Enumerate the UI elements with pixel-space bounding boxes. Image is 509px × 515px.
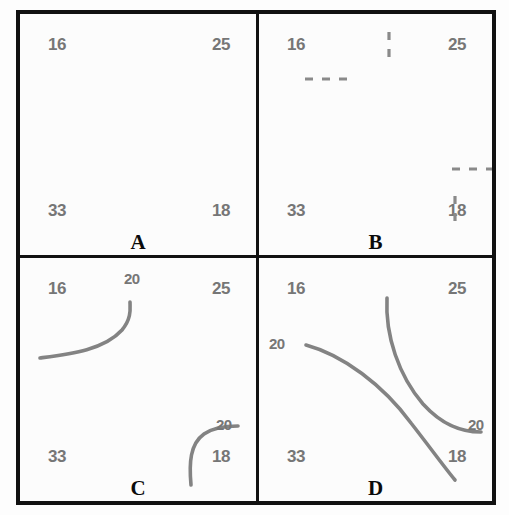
panel-letter-d: D — [259, 478, 492, 499]
top-to-right-contour-label: 20 — [468, 416, 484, 433]
panel-d-contour-layer: 2020 — [259, 258, 492, 501]
panel-c: 16 25 33 18 2020 C — [20, 258, 256, 501]
lower-right-contour — [190, 426, 238, 485]
panel-b: 16 25 33 18 B — [259, 14, 492, 255]
panel-grid: 16 25 33 18 A 16 25 33 18 B 16 25 33 18 … — [16, 10, 496, 505]
upper-left-contour-label: 20 — [124, 270, 140, 287]
contour-figure: 16 25 33 18 A 16 25 33 18 B 16 25 33 18 … — [0, 0, 509, 515]
panel-letter-a: A — [20, 232, 256, 253]
panel-letter-c: C — [20, 478, 256, 499]
panel-c-contour-layer: 2020 — [20, 258, 256, 501]
panel-a: 16 25 33 18 A — [20, 14, 256, 255]
panel-a-contour-layer — [20, 14, 256, 255]
left-to-bottom-contour-label: 20 — [269, 335, 285, 352]
lower-right-contour-label: 20 — [216, 416, 232, 433]
upper-left-contour — [40, 302, 130, 358]
panel-b-contour-layer — [259, 14, 492, 255]
panel-d: 16 25 33 18 2020 D — [259, 258, 492, 501]
panel-letter-b: B — [259, 232, 492, 253]
